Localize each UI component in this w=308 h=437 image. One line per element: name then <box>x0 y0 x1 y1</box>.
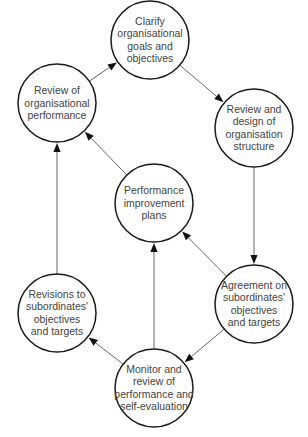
arrowhead-icon <box>53 143 60 152</box>
performance-cycle-diagram: Clarifyorganisationalgoals andobjectives… <box>0 0 308 437</box>
edge-revisions-to-review-performance <box>53 143 60 274</box>
node-improvement: Performanceimprovementplans <box>115 164 193 242</box>
arrowhead-icon <box>214 94 223 103</box>
edge-monitor-to-improvement <box>150 243 157 349</box>
node-label-line: organisation <box>225 128 282 140</box>
node-label-line: Revisions to <box>28 288 85 300</box>
node-label-line: plans <box>141 209 166 221</box>
edge-agreement-to-improvement <box>182 231 226 276</box>
node-label-line: performance <box>28 109 87 121</box>
arrowhead-icon <box>185 354 194 363</box>
edge-monitor-to-revisions <box>89 337 124 364</box>
node-label-line: review of <box>133 375 175 387</box>
node-label-line: goals and <box>127 40 173 52</box>
arrowhead-icon <box>89 337 98 345</box>
node-label-line: subordinates' <box>26 300 88 312</box>
node-label-line: design of <box>233 115 276 127</box>
arrowhead-icon <box>107 62 116 70</box>
node-label-line: Review of <box>34 84 80 96</box>
node-label-line: organisational <box>117 27 182 39</box>
connector-line <box>192 329 225 356</box>
node-agreement: Agreement onsubordinates'objectivesand t… <box>215 265 293 343</box>
node-revisions: Revisions tosubordinates'objectivesand t… <box>18 274 96 352</box>
arrowhead-icon <box>250 255 257 264</box>
edge-improvement-to-review-performance <box>85 132 127 175</box>
node-label-line: organisational <box>24 97 89 109</box>
node-label-line: and targets <box>228 316 281 328</box>
connector-line <box>91 138 127 175</box>
connector-line <box>188 238 226 276</box>
node-label-line: self-evaluation <box>120 400 188 412</box>
edge-agreement-to-monitor <box>185 329 225 362</box>
node-label-line: performance and <box>114 388 194 400</box>
nodes-layer: Clarifyorganisationalgoals andobjectives… <box>18 1 293 427</box>
edge-clarify-to-review-design <box>180 65 224 102</box>
node-label-line: Review and <box>227 103 282 115</box>
node-label-line: objectives <box>231 304 278 316</box>
connector-line <box>180 65 217 96</box>
node-clarify: Clarifyorganisationalgoals andobjectives <box>111 1 189 79</box>
node-label-line: objectives <box>34 313 81 325</box>
node-label-line: subordinates' <box>223 291 285 303</box>
node-review-design: Review anddesign oforganisationstructure <box>215 89 293 167</box>
edge-review-performance-to-clarify <box>89 62 117 81</box>
node-label-line: Monitor and <box>126 363 182 375</box>
node-label-line: Agreement on <box>221 279 287 291</box>
node-label-line: structure <box>234 140 275 152</box>
node-label-line: Clarify <box>135 15 166 27</box>
edge-review-design-to-agreement <box>250 167 257 264</box>
node-label-line: and targets <box>31 325 84 337</box>
arrowhead-icon <box>150 243 157 252</box>
node-review-performance: Review oforganisationalperformance <box>18 64 96 142</box>
node-label-line: objectives <box>127 52 174 64</box>
node-label-line: Performance <box>124 184 184 196</box>
connector-line <box>89 67 109 81</box>
node-label-line: improvement <box>124 197 185 209</box>
node-monitor: Monitor andreview ofperformance andself-… <box>114 349 194 427</box>
connector-line <box>96 343 123 364</box>
